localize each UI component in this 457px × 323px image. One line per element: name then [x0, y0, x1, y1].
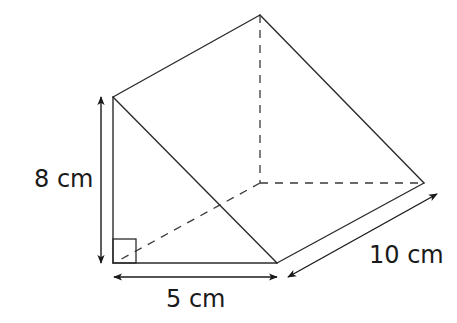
- base-label: 5 cm: [166, 285, 225, 313]
- height-label: 8 cm: [34, 165, 93, 193]
- length-label: 10 cm: [369, 241, 444, 269]
- back-hypotenuse-edge: [260, 15, 424, 183]
- top-length-edge: [113, 15, 260, 97]
- front-hypotenuse-edge: [113, 97, 277, 263]
- hidden-edge-length-bottom-left: [116, 183, 260, 262]
- triangular-prism-diagram: 8 cm 5 cm 10 cm: [0, 0, 457, 323]
- visible-edges: [113, 15, 424, 263]
- right-angle-marker: [113, 239, 136, 263]
- hidden-edges: [116, 15, 424, 262]
